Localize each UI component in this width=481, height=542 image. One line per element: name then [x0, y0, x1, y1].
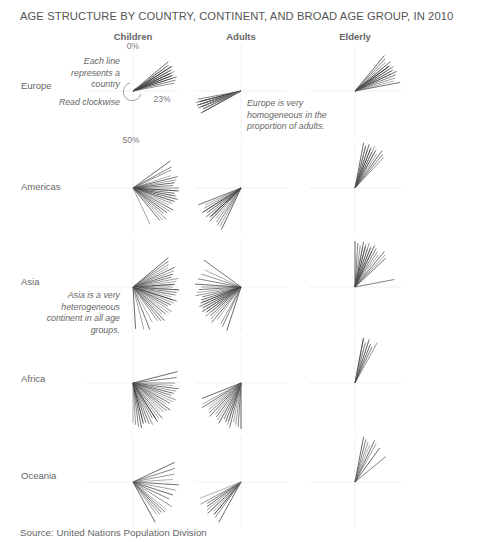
- cell-asia-children: [87, 241, 179, 333]
- cell-oceania-elderly: [309, 436, 401, 528]
- country-line: [355, 71, 397, 91]
- cell-americas-adults: [195, 142, 287, 234]
- cell-europe-elderly: [309, 45, 401, 137]
- cell-africa-adults: [195, 337, 287, 429]
- cell-americas-children: [87, 142, 179, 234]
- country-line: [133, 482, 160, 514]
- cell-asia-adults: [195, 241, 287, 333]
- country-line: [355, 146, 375, 188]
- radial-line-plot: [0, 0, 481, 542]
- country-line: [355, 75, 396, 91]
- cell-oceania-children: [87, 436, 179, 528]
- country-line: [133, 378, 177, 384]
- country-line: [204, 260, 241, 287]
- cell-asia-elderly: [309, 241, 401, 333]
- cell-africa-elderly: [309, 337, 401, 429]
- country-line: [203, 91, 241, 109]
- country-line: [205, 270, 241, 287]
- country-line: [133, 462, 175, 482]
- source-note: Source: United Nations Population Divisi…: [20, 527, 207, 538]
- clockwise-arc-icon: [123, 83, 141, 101]
- cell-oceania-adults: [195, 436, 287, 528]
- country-line: [355, 440, 375, 482]
- cell-americas-elderly: [309, 142, 401, 234]
- cell-europe-children: [87, 45, 179, 137]
- country-line: [133, 482, 165, 512]
- country-line: [196, 91, 241, 102]
- country-line: [133, 372, 178, 383]
- country-line: [355, 151, 382, 188]
- cell-africa-children: [87, 337, 179, 429]
- country-line: [133, 76, 170, 91]
- country-line: [355, 439, 366, 482]
- cell-europe-adults: [195, 45, 287, 137]
